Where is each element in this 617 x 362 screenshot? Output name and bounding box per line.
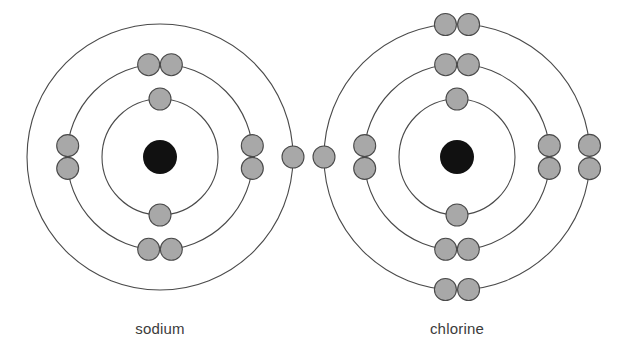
electron-shell-diagram-figure: sodium chlorine — [0, 0, 617, 362]
electron-shell-3-1 — [282, 146, 304, 168]
atom-diagram-sodium: sodium — [10, 7, 310, 307]
electron-shell-2-1 — [138, 54, 160, 76]
electron-shell-3-5 — [578, 158, 600, 180]
nucleus-sodium — [143, 140, 177, 174]
electron-shell-3-1 — [434, 14, 456, 36]
electron-shell-2-6 — [538, 157, 560, 179]
electron-shell-3-3 — [313, 146, 335, 168]
electron-shell-2-2 — [160, 54, 182, 76]
electron-shell-1-2 — [446, 204, 468, 226]
electron-shell-1-2 — [149, 204, 171, 226]
electron-shell-2-5 — [538, 135, 560, 157]
electron-shell-1-1 — [446, 88, 468, 110]
electron-shell-2-7 — [457, 238, 479, 260]
electron-shell-2-3 — [354, 157, 376, 179]
electron-shell-2-7 — [160, 238, 182, 260]
atom-label-chlorine: chlorine — [307, 320, 607, 337]
electron-shell-2-4 — [57, 135, 79, 157]
atom-label-sodium: sodium — [10, 320, 310, 337]
nucleus-chlorine — [440, 140, 474, 174]
electron-shell-2-6 — [241, 157, 263, 179]
electron-shell-2-2 — [457, 54, 479, 76]
electron-shell-1-1 — [149, 88, 171, 110]
electron-shell-2-1 — [435, 54, 457, 76]
atom-svg-chlorine — [307, 7, 607, 307]
electron-shell-2-8 — [138, 238, 160, 260]
electron-shell-3-7 — [434, 278, 456, 300]
electron-shell-3-2 — [458, 14, 480, 36]
atom-svg-sodium — [10, 7, 310, 307]
electron-shell-2-8 — [435, 238, 457, 260]
electron-shell-2-3 — [57, 157, 79, 179]
electron-shell-3-4 — [578, 134, 600, 156]
atom-diagram-chlorine: chlorine — [307, 7, 607, 307]
electron-shell-3-6 — [458, 278, 480, 300]
electron-shell-2-4 — [354, 135, 376, 157]
electron-shell-2-5 — [241, 135, 263, 157]
